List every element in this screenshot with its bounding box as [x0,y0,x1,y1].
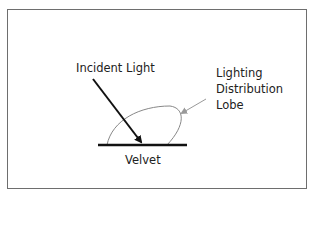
velvet-label: Velvet [125,153,161,168]
lobe-label-line2: Distribution [216,82,283,97]
lobe-label-line1: Lighting [216,66,262,81]
lobe-pointer-arrow [182,99,206,113]
lobe-label-line3: Lobe [216,98,244,113]
incident-light-label: Incident Light [76,61,155,76]
incident-light-arrow [93,79,141,142]
